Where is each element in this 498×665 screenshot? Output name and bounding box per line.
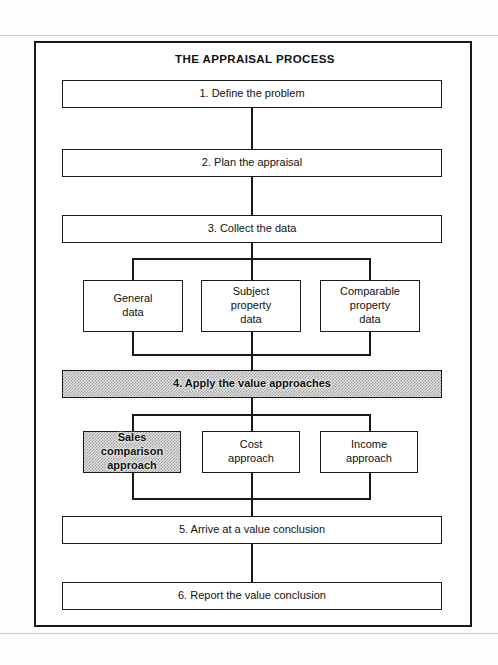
page-rule-top bbox=[0, 35, 498, 36]
node-step-5-label: 5. Arrive at a value conclusion bbox=[175, 523, 329, 537]
node-step-5[interactable]: 5. Arrive at a value conclusion bbox=[62, 516, 442, 544]
node-income-approach-label: Incomeapproach bbox=[342, 438, 396, 466]
node-sales-comparison-approach-label: Sales comparisonapproach bbox=[84, 431, 180, 472]
node-cost-approach[interactable]: Costapproach bbox=[202, 431, 300, 473]
node-step-3[interactable]: 3. Collect the data bbox=[62, 215, 442, 243]
node-step-6-label: 6. Report the value conclusion bbox=[174, 589, 330, 603]
connector-approach-to-step5 bbox=[251, 498, 253, 516]
connector-comparable-down bbox=[369, 332, 371, 356]
node-step-1-label: 1. Define the problem bbox=[195, 87, 308, 101]
connector-step3-bus bbox=[132, 258, 371, 260]
connector-general-down bbox=[132, 332, 134, 356]
node-income-approach[interactable]: Incomeapproach bbox=[320, 431, 418, 473]
node-cost-approach-label: Costapproach bbox=[224, 438, 278, 466]
scanned-page: THE APPRAISAL PROCESS 1. Define the prob… bbox=[0, 0, 498, 665]
connector-cost-down bbox=[251, 473, 253, 500]
node-sales-comparison-approach[interactable]: Sales comparisonapproach bbox=[83, 431, 181, 473]
node-step-2-label: 2. Plan the appraisal bbox=[198, 156, 306, 170]
page-title: THE APPRAISAL PROCESS bbox=[36, 53, 474, 65]
connector-step4-to-sales bbox=[132, 414, 134, 431]
node-general-data-label: Generaldata bbox=[109, 292, 156, 320]
node-comparable-property-data[interactable]: Comparablepropertydata bbox=[320, 280, 420, 332]
connector-step4-to-income bbox=[369, 414, 371, 431]
connector-step3-stem bbox=[251, 243, 253, 280]
node-step-3-label: 3. Collect the data bbox=[204, 222, 301, 236]
connector-sales-down bbox=[132, 473, 134, 500]
node-step-4[interactable]: 4. Apply the value approaches bbox=[62, 370, 442, 398]
node-subject-property-data-label: Subjectpropertydata bbox=[227, 285, 275, 326]
connector-step5-step6 bbox=[251, 544, 253, 582]
connector-subject-down bbox=[251, 332, 253, 356]
figure-frame: THE APPRAISAL PROCESS 1. Define the prob… bbox=[34, 41, 472, 627]
node-step-2[interactable]: 2. Plan the appraisal bbox=[62, 149, 442, 177]
node-step-6[interactable]: 6. Report the value conclusion bbox=[62, 582, 442, 610]
connector-step3-to-general bbox=[132, 258, 134, 280]
connector-income-down bbox=[369, 473, 371, 500]
connector-step1-step2 bbox=[251, 108, 253, 149]
node-comparable-property-data-label: Comparablepropertydata bbox=[336, 285, 404, 326]
node-step-1[interactable]: 1. Define the problem bbox=[62, 80, 442, 108]
page-rule-bottom bbox=[0, 633, 498, 634]
connector-step3-to-comparable bbox=[369, 258, 371, 280]
connector-step2-step3 bbox=[251, 177, 253, 215]
node-subject-property-data[interactable]: Subjectpropertydata bbox=[201, 280, 301, 332]
connector-step4-bus bbox=[132, 414, 371, 416]
node-step-4-label: 4. Apply the value approaches bbox=[169, 377, 335, 391]
connector-data-to-step4 bbox=[251, 354, 253, 370]
node-general-data[interactable]: Generaldata bbox=[83, 280, 183, 332]
